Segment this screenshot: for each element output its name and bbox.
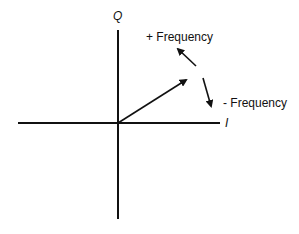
negative-rotation-arrow bbox=[203, 78, 211, 106]
i-axis-label: I bbox=[225, 116, 228, 130]
negative-frequency-label: - Frequency bbox=[223, 96, 287, 110]
iq-diagram: Q I + Frequency - Frequency bbox=[0, 0, 299, 234]
q-axis-label: Q bbox=[113, 9, 122, 23]
phasor-vector bbox=[118, 80, 186, 123]
positive-rotation-arrow bbox=[178, 49, 196, 66]
positive-frequency-label: + Frequency bbox=[146, 30, 213, 44]
